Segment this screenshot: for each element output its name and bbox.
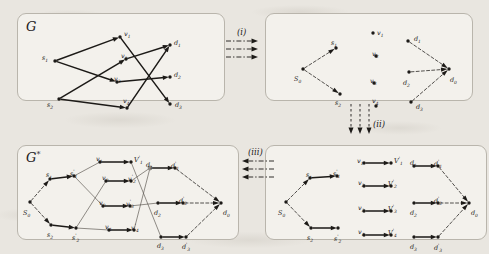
node-d3 — [159, 235, 162, 238]
edge-d2p-to-d0 — [185, 201, 220, 205]
node-v1p — [129, 160, 132, 163]
transition-arrow — [242, 167, 274, 172]
edge-s2-to-s2p — [53, 225, 75, 230]
node-label-v1: v1 — [377, 30, 383, 39]
transition-ii: (ii) — [345, 104, 395, 144]
node-d2 — [168, 75, 171, 78]
node-label-v4: v4 — [358, 229, 364, 238]
node-label-v1: v1 — [357, 158, 363, 167]
node-d3p — [436, 235, 439, 238]
node-label-d1p: d'1 — [434, 160, 442, 170]
node-label-d3: d3 — [416, 104, 423, 113]
node-d3p — [184, 235, 187, 238]
node-label-v2: v2 — [372, 51, 378, 60]
node-label-v4: v4 — [105, 224, 111, 233]
node-label-v4: v4 — [123, 98, 129, 107]
transition-iii: (iii) — [240, 148, 280, 190]
edge-s1-to-v3 — [57, 62, 116, 82]
node-d1 — [406, 39, 409, 42]
node-label-d1: d1 — [410, 160, 417, 169]
node-d3 — [409, 100, 412, 103]
node-label-v1p: V'1 — [394, 157, 403, 167]
edge-d3-to-d3p — [416, 235, 437, 240]
node-label-v2: v2 — [121, 53, 127, 62]
graph-sd-canvas — [266, 14, 474, 102]
transition-arrow — [349, 104, 354, 134]
node-label-v3: v3 — [114, 76, 120, 85]
edge-d2-to-d0 — [411, 68, 448, 72]
node-v1 — [118, 35, 121, 38]
node-label-d2: d2 — [154, 210, 161, 219]
node-s0 — [301, 67, 304, 70]
node-label-d3p: d'3 — [434, 244, 442, 254]
node-d0 — [447, 67, 450, 70]
node-label-d2: d2 — [410, 210, 417, 219]
node-label-v2p: v'2 — [128, 175, 136, 185]
node-label-d0: d0 — [223, 210, 230, 219]
edge-v1-to-v1p — [366, 161, 390, 166]
node-label-s0: S0 — [23, 210, 30, 219]
edge-s0-to-s1 — [305, 49, 335, 68]
node-label-d1: d1 — [414, 36, 421, 45]
node-d3 — [168, 102, 171, 105]
edge-v1-to-v1p — [102, 160, 130, 165]
edge-v2-to-v2p — [108, 179, 130, 184]
node-label-s0: S0 — [294, 76, 301, 85]
transition-arrow — [242, 175, 274, 180]
node-label-s1: s1 — [46, 172, 52, 181]
node-s2 — [49, 223, 52, 226]
node-label-d3: d3 — [175, 102, 182, 111]
transition-arrow — [358, 104, 363, 134]
node-label-d3p: d'3 — [182, 243, 190, 253]
node-s0 — [28, 200, 31, 203]
panel-graph-gstar: G* S0s1s'1s2s'2v1V'1v2v'2v3v'3v4v'4d1d'1… — [17, 145, 239, 240]
edge-v4p-to-d1 — [134, 169, 149, 228]
transition-ii-arrows — [345, 104, 395, 144]
node-label-d2: d2 — [403, 80, 410, 89]
node-s1 — [53, 59, 56, 62]
node-label-v2: v2 — [102, 175, 108, 184]
node-label-d3: d3 — [157, 243, 164, 252]
node-d0 — [467, 201, 470, 204]
node-label-s1p: s'1 — [333, 170, 340, 180]
edge-d3-to-d3p — [163, 235, 185, 240]
graph-split-canvas — [266, 146, 488, 241]
graph-gstar-canvas — [18, 146, 240, 241]
node-label-s1: s1 — [42, 55, 48, 64]
node-label-v2: v2 — [358, 180, 364, 189]
edge-s0-to-s2 — [287, 203, 310, 226]
node-label-d2p: d'2 — [434, 197, 442, 207]
node-label-v3: v3 — [99, 200, 105, 209]
node-label-d3: d3 — [410, 244, 417, 253]
node-v1 — [371, 31, 374, 34]
transition-arrow — [242, 159, 274, 164]
node-s2 — [57, 97, 60, 100]
edge-v4-to-v4p — [111, 228, 133, 233]
node-s2p — [74, 226, 77, 229]
edge-v3-to-d2 — [119, 75, 169, 81]
node-label-v3: v3 — [370, 78, 376, 87]
node-label-v1: v1 — [124, 31, 130, 40]
node-d2 — [407, 70, 410, 73]
edge-v3p-to-d2 — [132, 203, 157, 206]
node-v4 — [125, 106, 128, 109]
edge-s0-to-s2 — [305, 70, 339, 93]
transition-arrow — [226, 39, 258, 44]
node-label-s2: s2 — [47, 102, 53, 111]
edge-s0-to-s1 — [31, 180, 49, 200]
transition-ii-label: (ii) — [373, 120, 385, 129]
edge-d1p-to-d0 — [439, 168, 468, 202]
edge-v3-to-v3p — [366, 209, 390, 214]
edge-s2-to-s2p — [313, 226, 337, 231]
node-d2 — [156, 201, 159, 204]
node-d3 — [412, 235, 415, 238]
node-label-s0: S0 — [278, 210, 285, 219]
node-label-v2p: V'2 — [388, 180, 397, 190]
node-d2 — [412, 201, 415, 204]
edge-d1-to-d0 — [410, 42, 448, 68]
node-label-s2p: s'2 — [72, 234, 79, 244]
node-label-d1: d1 — [174, 40, 181, 49]
edge-d3-to-d0 — [413, 70, 448, 101]
node-label-s2: s2 — [47, 232, 53, 241]
node-label-d0: d0 — [471, 210, 478, 219]
